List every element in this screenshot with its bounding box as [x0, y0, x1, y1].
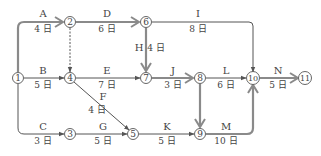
- activity-g-label: G: [99, 121, 107, 132]
- svg-text:3: 3: [67, 129, 73, 139]
- activity-n-duration: 5 日: [269, 80, 287, 90]
- activity-j-duration: 3 日: [164, 80, 182, 90]
- activity-b-label: B: [39, 65, 46, 76]
- activity-a-label: A: [38, 8, 47, 19]
- node-11: 11: [299, 72, 312, 85]
- activity-g-duration: 5 日: [94, 136, 112, 146]
- node-8: 8: [195, 73, 206, 84]
- activity-n-label: N: [274, 65, 283, 76]
- svg-text:2: 2: [67, 17, 73, 27]
- activity-h-label: H: [135, 42, 144, 53]
- node-4: 4: [65, 73, 76, 84]
- activity-j-label: J: [170, 65, 175, 76]
- activity-i-duration: 8 日: [189, 24, 207, 34]
- activity-f-label: F: [100, 91, 107, 102]
- node-6: 6: [141, 17, 152, 28]
- svg-text:1: 1: [15, 73, 21, 83]
- activity-f-duration: 4 日: [88, 105, 106, 115]
- svg-text:4: 4: [67, 73, 73, 83]
- activity-e-duration: 7 日: [98, 80, 116, 90]
- activity-c-duration: 3 日: [34, 136, 52, 146]
- activity-i-label: I: [196, 8, 200, 19]
- activity-k-label: K: [163, 121, 171, 132]
- svg-text:6: 6: [143, 17, 149, 27]
- activity-m-label: M: [221, 121, 231, 132]
- network-diagram: 1 2 3 4 5 6 7 8 9 10 11 A 4 日 B 5: [0, 0, 321, 156]
- svg-text:8: 8: [197, 73, 203, 83]
- svg-text:7: 7: [143, 73, 149, 83]
- activity-h-duration: 4 日: [147, 43, 165, 53]
- activity-d-label: D: [103, 8, 111, 19]
- activity-e-label: E: [103, 65, 110, 76]
- svg-text:5: 5: [130, 129, 136, 139]
- svg-text:10: 10: [248, 74, 258, 83]
- svg-text:9: 9: [197, 129, 203, 139]
- node-3: 3: [65, 129, 76, 140]
- node-5: 5: [128, 129, 139, 140]
- svg-text:11: 11: [300, 74, 310, 83]
- activity-l-duration: 6 日: [217, 80, 235, 90]
- node-9: 9: [195, 129, 206, 140]
- activity-c-label: C: [39, 121, 47, 132]
- activity-m-duration: 10 日: [214, 136, 237, 146]
- node-7: 7: [141, 73, 152, 84]
- activity-l-label: L: [223, 65, 230, 76]
- node-2: 2: [65, 17, 76, 28]
- node-1: 1: [13, 73, 24, 84]
- activity-d-duration: 6 日: [98, 24, 116, 34]
- activity-b-duration: 5 日: [34, 80, 52, 90]
- activity-k-duration: 5 日: [158, 136, 176, 146]
- node-10: 10: [247, 72, 260, 85]
- activity-a-duration: 4 日: [34, 24, 52, 34]
